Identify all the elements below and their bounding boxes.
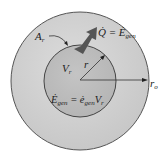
inner-sphere	[44, 45, 116, 117]
heat-rate-label: Q̇ = Ėgen	[98, 26, 136, 40]
sphere-heat-generation-diagram: Ar Q̇ = Ėgen Vr r ro Ėgen = ėgenVr	[0, 0, 166, 158]
radius-label: r	[84, 58, 89, 70]
outer-radius-label: ro	[150, 77, 158, 91]
